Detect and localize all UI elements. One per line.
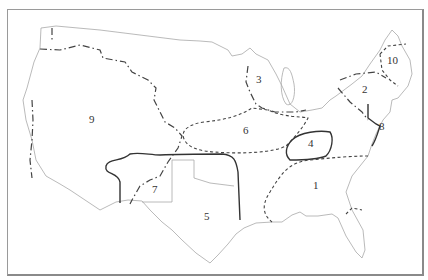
- region-label-1: 1: [313, 179, 319, 191]
- us-outline: [23, 26, 412, 263]
- region-label-8: 8: [379, 120, 385, 132]
- region-label-7: 7: [152, 183, 158, 195]
- region-7-boundary: [106, 153, 240, 220]
- region-9-coast-boundary: [30, 100, 33, 178]
- texas-outline: [142, 160, 234, 202]
- region-3-boundary: [246, 66, 306, 112]
- region-2-boundary: [338, 72, 386, 120]
- region-label-6: 6: [243, 124, 249, 136]
- region-label-2: 2: [362, 83, 368, 95]
- region-9-boundary: [40, 45, 182, 204]
- region-label-4: 4: [308, 137, 314, 149]
- region-label-10: 10: [387, 54, 399, 66]
- region-label-3: 3: [256, 73, 262, 85]
- region-label-5: 5: [204, 210, 210, 222]
- region-label-9: 9: [89, 113, 95, 125]
- us-region-map: 9 7 5 3 6 4 1 2 8 10: [0, 0, 428, 280]
